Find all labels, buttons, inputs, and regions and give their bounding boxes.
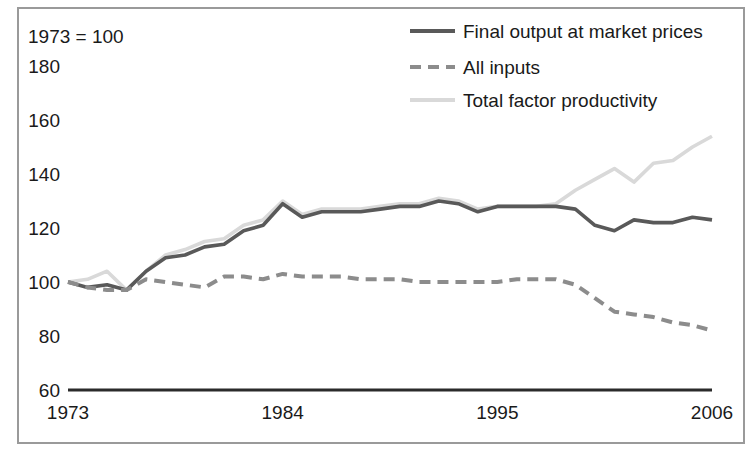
x-axis-tick-label: 1995 bbox=[452, 403, 542, 422]
series-line bbox=[68, 274, 712, 331]
legend-label: Final output at market prices bbox=[463, 22, 703, 41]
y-axis-tick-label: 60 bbox=[8, 381, 60, 400]
y-axis-tick-label: 120 bbox=[8, 219, 60, 238]
legend-label: All inputs bbox=[463, 58, 540, 77]
y-axis-tick-label: 100 bbox=[8, 273, 60, 292]
series-line bbox=[68, 136, 712, 290]
chart-plot-area bbox=[0, 0, 751, 453]
x-axis-tick-label: 2006 bbox=[667, 403, 751, 422]
x-axis-tick-label: 1973 bbox=[23, 403, 113, 422]
y-axis-tick-label: 80 bbox=[8, 327, 60, 346]
y-axis-tick-label: 140 bbox=[8, 165, 60, 184]
y-axis-tick-label: 180 bbox=[8, 57, 60, 76]
chart-figure: 1973 = 100 1801601401201008060 197319841… bbox=[0, 0, 751, 453]
legend-label: Total factor productivity bbox=[463, 91, 657, 110]
x-axis-tick-label: 1984 bbox=[238, 403, 328, 422]
series-line bbox=[68, 201, 712, 290]
y-axis-tick-label: 160 bbox=[8, 111, 60, 130]
